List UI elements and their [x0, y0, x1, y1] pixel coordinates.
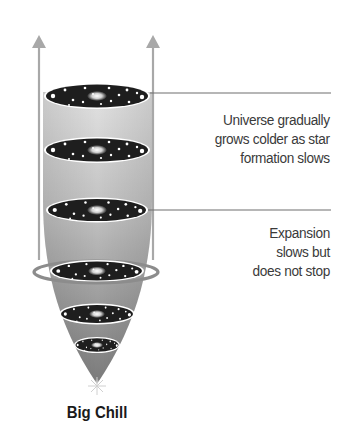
galaxy-disk-6: [74, 337, 120, 353]
starburst-icon: [88, 377, 106, 395]
galaxy-disk-4: [50, 260, 144, 282]
annotation-line: Expansion: [253, 223, 330, 242]
annotation-line: Universe gradually: [215, 110, 330, 129]
annotation-expansion: Expansion slows but does not stop: [253, 223, 330, 280]
annotation-line: does not stop: [253, 261, 330, 280]
annotation-star-formation: Universe gradually grows colder as star …: [215, 110, 330, 167]
galaxy-disk-5: [59, 304, 135, 325]
galaxy-disk-1: [44, 83, 150, 109]
annotation-line: grows colder as star: [215, 129, 330, 148]
galaxy-disk-3: [46, 198, 148, 223]
annotation-line: formation slows: [215, 148, 330, 167]
big-chill-diagram: [0, 0, 361, 433]
galaxy-disk-2: [44, 137, 150, 163]
annotation-line: slows but: [253, 242, 330, 261]
diagram-title: Big Chill: [12, 403, 183, 423]
